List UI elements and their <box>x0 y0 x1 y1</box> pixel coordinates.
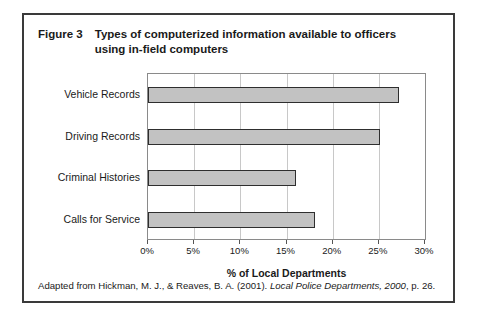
bar <box>148 212 315 228</box>
bar-chart: Vehicle RecordsDriving RecordsCriminal H… <box>24 73 453 248</box>
bar-row <box>148 74 425 116</box>
x-tick-mark <box>424 240 425 244</box>
bar <box>148 87 399 103</box>
x-tick-mark <box>239 240 240 244</box>
x-tick-mark <box>378 240 379 244</box>
category-label: Criminal Histories <box>29 171 147 183</box>
x-axis-title: % of Local Departments <box>147 267 426 279</box>
bar <box>148 129 380 145</box>
bar-row <box>148 158 425 200</box>
x-tick-label: 5% <box>186 245 200 256</box>
figure-caption: Types of computerized information availa… <box>95 27 415 56</box>
source-prefix: Adapted from Hickman, M. J., & Reaves, B… <box>38 280 267 291</box>
bar-row <box>148 199 425 241</box>
x-tick-label: 15% <box>276 245 295 256</box>
x-axis: 0%5%10%15%20%25%30% <box>147 240 426 264</box>
x-tick-mark <box>332 240 333 244</box>
bar-row <box>148 116 425 158</box>
x-tick-mark <box>286 240 287 244</box>
figure-number-label: Figure 3 <box>38 27 83 42</box>
x-tick-mark <box>193 240 194 244</box>
x-tick-label: 30% <box>414 245 433 256</box>
category-label: Calls for Service <box>29 213 147 225</box>
figure-frame: Figure 3 Types of computerized informati… <box>22 13 455 303</box>
bar <box>148 170 296 186</box>
source-note: Adapted from Hickman, M. J., & Reaves, B… <box>38 280 441 292</box>
source-suffix: , p. 26. <box>406 280 435 291</box>
category-label: Vehicle Records <box>29 88 147 100</box>
x-tick-mark <box>147 240 148 244</box>
category-label: Driving Records <box>29 130 147 142</box>
x-tick-label: 25% <box>368 245 387 256</box>
x-tick-label: 20% <box>322 245 341 256</box>
category-axis-labels: Vehicle RecordsDriving RecordsCriminal H… <box>24 73 147 240</box>
source-publication-title: Local Police Departments, 2000 <box>270 280 406 291</box>
plot-region <box>147 73 426 240</box>
figure-title-block: Figure 3 Types of computerized informati… <box>38 27 443 56</box>
x-tick-label: 10% <box>230 245 249 256</box>
x-tick-label: 0% <box>140 245 154 256</box>
